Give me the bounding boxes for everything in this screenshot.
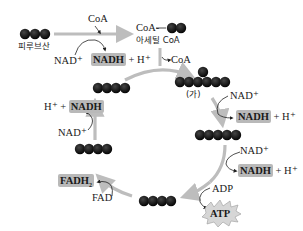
- pyruvate-molecule: [20, 29, 50, 39]
- step2-nadh-label: NADH: [238, 164, 273, 177]
- c4b-molecule: [75, 144, 112, 154]
- link-nad-label: NAD⁺: [54, 56, 83, 67]
- c4a-molecule: [139, 196, 176, 206]
- step2-h-label: + H⁺: [276, 165, 298, 176]
- citrate-label: (가): [186, 90, 201, 99]
- step5-nadh-group: H⁺ + NADH: [44, 102, 104, 113]
- c5-molecule: [195, 130, 241, 140]
- citrate-molecule: [175, 67, 230, 87]
- step2-nad-label: NAD⁺: [240, 146, 269, 157]
- fadh-text: FADH: [60, 175, 89, 186]
- step1-nadh-label: NADH: [236, 110, 271, 123]
- step1-nad-label: NAD⁺: [230, 91, 259, 102]
- step1-nadh-group: NADH + H⁺: [236, 112, 296, 123]
- tca-cycle-diagram: 피루브산 CoA NAD⁺ NADH + H⁺ CoA- 아세틸 CoA CoA…: [0, 0, 303, 231]
- step5-nadh-label: NADH: [69, 100, 104, 113]
- coa-in-arrow: [95, 26, 100, 33]
- step2-nadh-group: NADH + H⁺: [238, 166, 298, 177]
- step3-atp-label: ATP: [210, 209, 230, 220]
- step4-fadh2-group: FADH2: [58, 176, 94, 188]
- step1-h-label: + H⁺: [274, 111, 296, 122]
- acetyl-group-molecule: [167, 23, 186, 33]
- step5-curve-arrow: [86, 112, 93, 130]
- step5-nad-label: NAD⁺: [58, 128, 87, 139]
- acetyl-coa-prefix: CoA-: [136, 23, 159, 34]
- coa-out-arrow: [162, 57, 170, 60]
- step3-adp-label: ADP: [212, 184, 233, 195]
- link-h-label: + H⁺: [129, 54, 151, 65]
- pyruvate-label: 피루브산: [18, 42, 50, 51]
- coa-in-label: CoA: [88, 14, 108, 25]
- c4c-molecule: [93, 83, 130, 93]
- step4-fad-label: FAD: [92, 193, 112, 204]
- step4-fadh2-label: FADH2: [58, 174, 94, 187]
- link-nadh-label: NADH: [91, 53, 126, 66]
- step5-h-label: H⁺ +: [44, 101, 66, 112]
- fadh2-subscript: 2: [89, 182, 92, 188]
- acetyl-coa-label: 아세틸 CoA: [136, 36, 180, 45]
- link-nadh-group: NADH + H⁺: [91, 55, 151, 66]
- coa-out-label: CoA: [171, 55, 191, 66]
